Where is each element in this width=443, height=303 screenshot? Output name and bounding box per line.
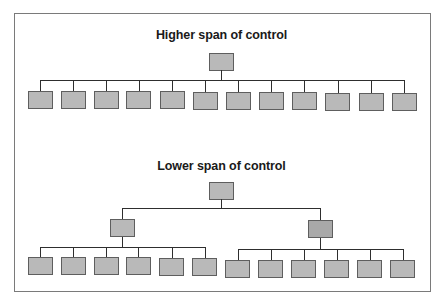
lower-manager-down-connector <box>320 238 321 249</box>
higher-child-connector <box>271 80 272 92</box>
higher-child-connector <box>172 80 173 91</box>
higher-child-node-11 <box>359 93 384 111</box>
higher-child-connector <box>139 80 140 91</box>
lower-manager-node-left <box>110 219 135 237</box>
lower-left-child-node-6 <box>192 258 217 276</box>
lower-child-connector <box>370 249 371 260</box>
higher-child-connector <box>73 80 74 91</box>
lower-right-child-node-5 <box>357 260 382 278</box>
lower-child-connector <box>337 249 338 260</box>
lower-child-connector <box>403 249 404 260</box>
higher-child-node-9 <box>292 92 317 110</box>
lower-child-connector <box>73 247 74 257</box>
lower-left-child-node-3 <box>94 257 119 275</box>
lower-left-child-node-1 <box>28 257 53 275</box>
higher-child-connector <box>205 80 206 92</box>
higher-child-node-8 <box>259 92 284 110</box>
higher-child-node-12 <box>392 93 417 111</box>
lower-child-connector <box>304 249 305 260</box>
higher-child-connector <box>338 80 339 93</box>
higher-child-node-2 <box>61 91 86 109</box>
lower-right-child-node-2 <box>258 260 283 278</box>
lower-child-connector <box>138 247 139 257</box>
lower-span-title: Lower span of control <box>0 159 443 173</box>
lower-right-child-node-4 <box>324 260 349 278</box>
lower-left-child-node-5 <box>159 258 184 276</box>
lower-right-group-bus-line <box>238 249 404 250</box>
lower-root-node <box>209 182 234 200</box>
lower-left-group-bus-line <box>40 247 205 248</box>
lower-manager-connector <box>320 208 321 220</box>
higher-root-node <box>209 53 234 71</box>
lower-root-connector <box>221 199 222 208</box>
higher-child-node-7 <box>226 92 251 110</box>
higher-child-node-6 <box>193 92 218 110</box>
higher-child-connector <box>304 80 305 92</box>
higher-bus-line <box>40 80 405 81</box>
lower-right-child-node-3 <box>291 260 316 278</box>
higher-child-connector <box>371 80 372 93</box>
higher-child-node-4 <box>126 91 151 109</box>
higher-child-connector <box>106 80 107 91</box>
higher-child-connector <box>238 80 239 92</box>
lower-manager-node-right <box>308 220 333 238</box>
lower-right-child-node-6 <box>390 260 415 278</box>
lower-child-connector <box>205 247 206 258</box>
higher-child-node-10 <box>325 93 350 111</box>
lower-left-child-node-4 <box>126 257 151 275</box>
higher-child-node-3 <box>94 91 119 109</box>
higher-child-node-1 <box>28 91 53 109</box>
lower-child-connector <box>238 249 239 260</box>
lower-right-child-node-1 <box>225 260 250 278</box>
higher-child-connector <box>40 80 41 91</box>
lower-left-child-node-2 <box>61 257 86 275</box>
higher-child-node-5 <box>160 91 185 109</box>
lower-child-connector <box>106 247 107 257</box>
lower-manager-connector <box>122 208 123 219</box>
lower-child-connector <box>271 249 272 260</box>
higher-span-title: Higher span of control <box>0 28 443 42</box>
lower-manager-bus-line <box>122 208 321 209</box>
lower-child-connector <box>40 247 41 257</box>
higher-child-connector <box>404 80 405 93</box>
lower-child-connector <box>172 247 173 258</box>
